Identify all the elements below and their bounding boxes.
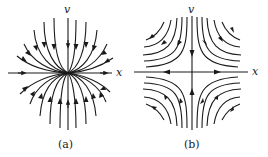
- axis-label-v-a: v: [64, 3, 70, 16]
- caption-a: (a): [58, 138, 73, 151]
- axis-label-x-b: x: [252, 65, 258, 78]
- caption-b: (b): [184, 138, 200, 151]
- trajectories-a: [0, 0, 134, 157]
- phase-portrait-b: v x (b): [134, 0, 268, 157]
- trajectories-b: [134, 0, 268, 157]
- axis-label-v-b: v: [188, 3, 194, 16]
- phase-portrait-a: v x (a): [0, 0, 134, 157]
- axis-label-x-a: x: [116, 66, 122, 79]
